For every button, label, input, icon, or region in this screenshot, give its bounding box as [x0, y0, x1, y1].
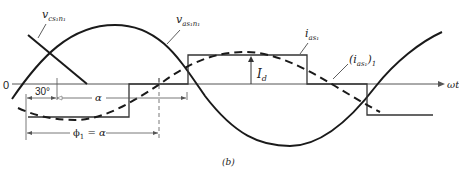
id-label: Id — [256, 67, 267, 83]
arrow-left-icon — [27, 131, 32, 135]
v-cs-curve — [28, 35, 87, 84]
id-arrow-icon — [248, 56, 254, 62]
i-as-fund-label: (ias₁)1 — [349, 53, 376, 68]
arrow-right-icon — [51, 96, 56, 100]
arrow-left-icon — [27, 96, 32, 100]
i-as-leader — [300, 43, 308, 54]
axis-label: ωt — [447, 79, 459, 90]
arrow-right-icon — [153, 131, 158, 135]
i-as-fund-leader — [333, 64, 348, 79]
v-as-label: vas₁n₁ — [176, 13, 200, 28]
v-as-leader — [167, 30, 180, 44]
v-cs-label: vcs₁n₁ — [42, 8, 66, 23]
i-as-label: ias₁ — [305, 27, 319, 42]
arrow-left-icon — [57, 96, 62, 100]
v-cs-leader — [38, 24, 46, 38]
axis-arrow-icon — [438, 81, 445, 87]
waveform-diagram: ωt 0 Id 30° α ϕ1 = α vcs₁n₁ vas₁n₁ — [0, 0, 459, 195]
arrow-right-icon — [181, 96, 186, 100]
origin-label: 0 — [3, 79, 9, 91]
figure-caption: (b) — [222, 157, 235, 167]
angle-30-label: 30° — [35, 86, 50, 97]
alpha-label: α — [95, 92, 102, 103]
